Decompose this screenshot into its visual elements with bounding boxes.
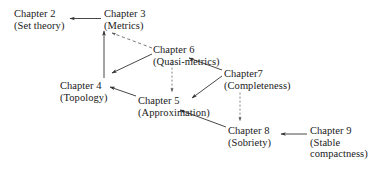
node-chapter-2-topic: (Set theory)	[14, 20, 64, 32]
chapter-dependency-diagram: Chapter 2 (Set theory) Chapter 3 (Metric…	[0, 0, 387, 170]
node-chapter-3-chapter: Chapter 3	[104, 8, 146, 20]
node-chapter-7[interactable]: Chapter7 (Completeness)	[224, 68, 291, 91]
edge-ch5-ch4	[110, 87, 136, 96]
node-chapter-4[interactable]: Chapter 4 (Topology)	[60, 80, 108, 103]
node-chapter-9-topic-line2: compactness)	[310, 148, 368, 160]
node-chapter-4-chapter: Chapter 4	[60, 80, 108, 92]
node-chapter-2[interactable]: Chapter 2 (Set theory)	[14, 8, 64, 31]
edge-ch6-ch4	[112, 54, 152, 73]
node-chapter-5-chapter: Chapter 5	[138, 95, 210, 107]
node-chapter-7-topic: (Completeness)	[224, 80, 291, 92]
node-chapter-9-chapter: Chapter 9	[310, 125, 368, 137]
node-chapter-2-chapter: Chapter 2	[14, 8, 64, 20]
node-chapter-8[interactable]: Chapter 8 (Sobriety)	[228, 125, 271, 148]
node-chapter-3[interactable]: Chapter 3 (Metrics)	[104, 8, 146, 31]
node-chapter-8-topic: (Sobriety)	[228, 137, 271, 149]
node-chapter-5[interactable]: Chapter 5 (Approximation)	[138, 95, 210, 118]
node-chapter-3-topic: (Metrics)	[104, 20, 146, 32]
node-chapter-6-topic: (Quasi-metrics)	[153, 56, 220, 68]
node-chapter-9[interactable]: Chapter 9 (Stable compactness)	[310, 125, 368, 160]
node-chapter-8-chapter: Chapter 8	[228, 125, 271, 137]
node-chapter-6[interactable]: Chapter 6 (Quasi-metrics)	[153, 44, 220, 67]
node-chapter-5-topic: (Approximation)	[138, 107, 210, 119]
node-chapter-7-chapter: Chapter7	[224, 68, 291, 80]
edge-ch6-ch3	[112, 33, 152, 48]
node-chapter-6-chapter: Chapter 6	[153, 44, 220, 56]
node-chapter-4-topic: (Topology)	[60, 92, 108, 104]
node-chapter-9-topic-line1: (Stable	[310, 137, 368, 149]
